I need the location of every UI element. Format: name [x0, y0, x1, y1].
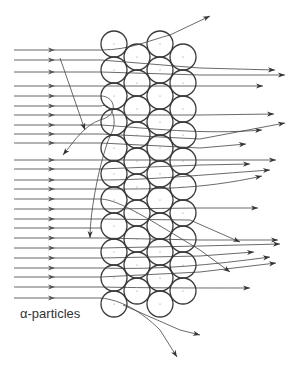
nucleus-dot	[136, 108, 137, 109]
nucleus-dot	[113, 303, 114, 304]
nucleus-dot	[136, 238, 137, 239]
nucleus-dot	[113, 121, 114, 122]
particle-path	[101, 298, 177, 357]
nucleus-dot	[159, 303, 160, 304]
nucleus-dot	[136, 264, 137, 265]
nucleus-dot	[182, 108, 183, 109]
nucleus-dot	[182, 186, 183, 187]
nucleus-dot	[113, 147, 114, 148]
nucleus-dot	[182, 160, 183, 161]
nucleus-dot	[159, 121, 160, 122]
nucleus-dot	[159, 251, 160, 252]
alpha-particles-label: α-particles	[20, 306, 80, 321]
nucleus-dot	[113, 277, 114, 278]
nucleus-dot	[159, 43, 160, 44]
nucleus-dot	[182, 134, 183, 135]
arrowhead-icon	[61, 148, 69, 157]
foil-atoms	[101, 31, 196, 317]
nucleus-dot	[159, 69, 160, 70]
arrowhead-icon	[223, 266, 232, 274]
nucleus-dot	[113, 173, 114, 174]
nucleus-dot	[136, 82, 137, 83]
nucleus-dot	[136, 290, 137, 291]
nucleus-dot	[113, 225, 114, 226]
nucleus-dot	[113, 199, 114, 200]
nucleus-dot	[182, 56, 183, 57]
nucleus-dot	[136, 56, 137, 57]
nucleus-dot	[113, 95, 114, 96]
particle-path	[101, 114, 274, 115]
nucleus-dot	[136, 134, 137, 135]
nucleus-dot	[182, 82, 183, 83]
nucleus-dot	[136, 186, 137, 187]
nucleus-dot	[182, 290, 183, 291]
arrowhead-icon	[233, 237, 242, 245]
particle-path	[101, 199, 230, 272]
nucleus-dot	[159, 147, 160, 148]
nucleus-dot	[182, 238, 183, 239]
nucleus-dot	[159, 225, 160, 226]
nucleus-dot	[159, 277, 160, 278]
nucleus-dot	[182, 212, 183, 213]
nucleus-dot	[159, 173, 160, 174]
arrowhead-icon	[255, 173, 263, 180]
particle-path	[101, 238, 278, 240]
nucleus-dot	[113, 251, 114, 252]
nucleus-dot	[159, 95, 160, 96]
particle-path	[101, 16, 210, 50]
incoming-alpha-rays	[14, 48, 101, 301]
arrowhead-icon	[171, 350, 179, 359]
nucleus-dot	[113, 69, 114, 70]
nucleus-dot	[182, 264, 183, 265]
nucleus-dot	[159, 199, 160, 200]
arrowhead-icon	[203, 14, 212, 22]
nucleus-dot	[136, 212, 137, 213]
nucleus-dot	[113, 43, 114, 44]
particle-path	[60, 58, 85, 130]
arrowhead-icon	[80, 123, 87, 131]
arrowhead-icon	[193, 331, 201, 338]
arrowhead-icon	[278, 120, 286, 126]
nucleus-dot	[136, 160, 137, 161]
